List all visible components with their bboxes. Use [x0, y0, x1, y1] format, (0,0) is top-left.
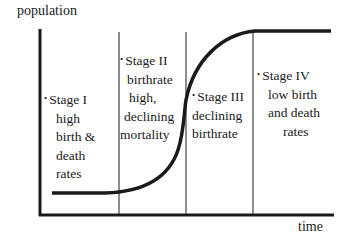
bullet-icon: •	[44, 93, 47, 103]
x-axis-label: time	[298, 219, 323, 235]
stage-3-label: •Stage III declining birthrate	[192, 86, 244, 144]
stage-4-label: •Stage IV low birth and death rates	[257, 65, 320, 141]
bullet-icon: •	[120, 54, 123, 64]
stage-1-label: •Stage I high birth & death rates	[44, 89, 95, 184]
bullet-icon: •	[192, 90, 195, 100]
stage-2-label: •Stage II birthrate high, declining mort…	[120, 50, 174, 145]
y-axis-label: population	[17, 3, 77, 19]
bullet-icon: •	[257, 69, 260, 79]
